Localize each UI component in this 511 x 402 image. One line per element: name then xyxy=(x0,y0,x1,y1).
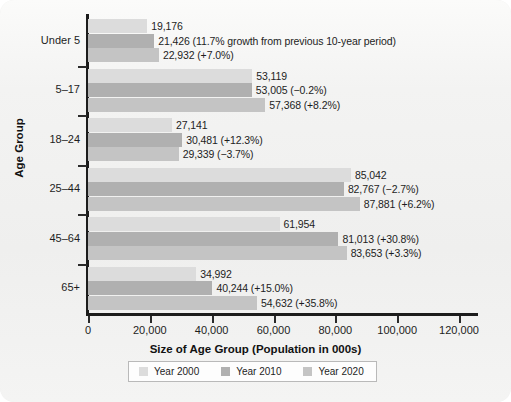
bar-group: 27,14130,481 (+12.3%)29,339 (−3.7%) xyxy=(88,118,459,161)
bar xyxy=(88,98,265,112)
y-axis-category-label: 5–17 xyxy=(0,83,80,95)
bar-value-label: 83,653 (+3.3%) xyxy=(351,246,422,260)
legend-swatch-icon xyxy=(303,367,312,376)
bar xyxy=(88,168,351,182)
bar xyxy=(88,267,196,281)
y-axis-tick xyxy=(78,115,87,117)
bar-value-label: 53,119 xyxy=(256,69,287,83)
x-axis-tick-label: 40,000 xyxy=(195,324,229,336)
x-axis-line xyxy=(86,313,478,316)
x-axis-tick xyxy=(397,316,399,323)
bar xyxy=(88,232,338,246)
bar-value-label: 54,632 (+35.8%) xyxy=(261,296,337,310)
x-axis-tick-label: 0 xyxy=(85,324,91,336)
legend-label: Year 2020 xyxy=(318,366,363,377)
bar xyxy=(88,197,360,211)
chart-legend: Year 2000Year 2010Year 2020 xyxy=(128,361,377,382)
bar-group: 85,04282,767 (−2.7%)87,881 (+6.2%) xyxy=(88,168,459,211)
chart-figure: Under 55–1718–2425–4445–6465+ 19,17621,4… xyxy=(0,0,511,402)
y-axis-category-label: 18–24 xyxy=(0,133,80,145)
bar xyxy=(88,147,179,161)
legend-item: Year 2000 xyxy=(139,366,199,377)
bar xyxy=(88,281,212,295)
plot-area: 19,17621,426 (11.7% growth from previous… xyxy=(88,16,459,313)
bar-value-label: 29,339 (−3.7%) xyxy=(183,147,254,161)
bar xyxy=(88,296,257,310)
bar xyxy=(88,69,252,83)
y-axis-title: Age Group xyxy=(13,103,25,193)
x-axis-title: Size of Age Group (Population in 000s) xyxy=(0,343,511,355)
x-axis-tick-label: 20,000 xyxy=(133,324,167,336)
legend-item: Year 2020 xyxy=(303,366,363,377)
bar-value-label: 30,481 (+12.3%) xyxy=(186,133,262,147)
bar-value-label: 34,992 xyxy=(200,267,232,281)
bar-value-label: 21,426 (11.7% growth from previous 10-ye… xyxy=(158,34,396,48)
bar xyxy=(88,217,280,231)
x-axis-tick xyxy=(212,316,214,323)
x-axis-tick xyxy=(459,316,461,323)
x-axis-tick xyxy=(274,316,276,323)
bar-value-label: 87,881 (+6.2%) xyxy=(364,197,435,211)
bar xyxy=(88,133,182,147)
legend-label: Year 2000 xyxy=(154,366,199,377)
bar-value-label: 22,932 (+7.0%) xyxy=(163,48,234,62)
bar-value-label: 61,954 xyxy=(284,217,316,231)
bar-value-label: 57,368 (+8.2%) xyxy=(269,98,340,112)
bar-group: 34,99240,244 (+15.0%)54,632 (+35.8%) xyxy=(88,267,459,310)
bar-value-label: 40,244 (+15.0%) xyxy=(216,281,292,295)
x-axis-tick xyxy=(335,316,337,323)
bar-value-label: 19,176 xyxy=(151,19,183,33)
bar-value-label: 27,141 xyxy=(176,118,208,132)
y-axis-category-label: 45–64 xyxy=(0,232,80,244)
legend-swatch-icon xyxy=(221,367,230,376)
bar xyxy=(88,48,159,62)
legend-item: Year 2010 xyxy=(221,366,281,377)
bar-group: 61,95481,013 (+30.8%)83,653 (+3.3%) xyxy=(88,217,459,260)
bar xyxy=(88,34,154,48)
y-axis-tick xyxy=(78,264,87,266)
bar-value-label: 81,013 (+30.8%) xyxy=(342,232,418,246)
legend-label: Year 2010 xyxy=(236,366,281,377)
y-axis-tick xyxy=(78,66,87,68)
bar xyxy=(88,182,344,196)
bar-group: 19,17621,426 (11.7% growth from previous… xyxy=(88,19,459,62)
x-axis-tick-label: 60,000 xyxy=(257,324,291,336)
y-axis-category-label: 25–44 xyxy=(0,182,80,194)
y-axis-tick xyxy=(78,165,87,167)
bar-value-label: 85,042 xyxy=(355,168,387,182)
bar-group: 53,11953,005 (−0.2%)57,368 (+8.2%) xyxy=(88,69,459,112)
x-axis-tick xyxy=(150,316,152,323)
x-axis-tick-label: 80,000 xyxy=(319,324,353,336)
bar xyxy=(88,118,172,132)
bar xyxy=(88,246,347,260)
x-axis-tick xyxy=(88,316,90,323)
bar-value-label: 82,767 (−2.7%) xyxy=(348,182,419,196)
bar xyxy=(88,83,252,97)
bar-value-label: 53,005 (−0.2%) xyxy=(256,83,327,97)
legend-swatch-icon xyxy=(139,367,148,376)
bar xyxy=(88,19,147,33)
y-axis-category-label: Under 5 xyxy=(0,34,80,46)
x-axis-tick-label: 120,000 xyxy=(439,324,479,336)
y-axis-category-label: 65+ xyxy=(0,281,80,293)
x-axis-tick-label: 100,000 xyxy=(377,324,417,336)
y-axis-tick xyxy=(78,214,87,216)
